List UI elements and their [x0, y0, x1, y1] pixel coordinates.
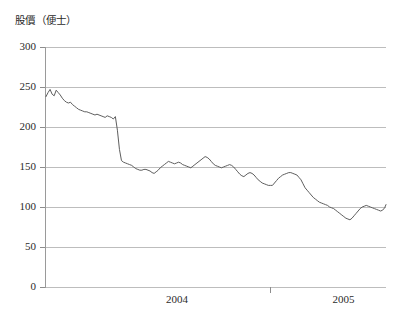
stock-price-chart: 股價（便士） 300250200150100500 20042005 — [0, 0, 398, 321]
price-series-svg — [0, 0, 398, 321]
price-line — [46, 89, 386, 219]
